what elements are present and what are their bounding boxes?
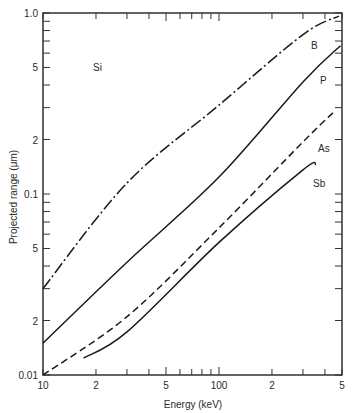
- projected-range-chart: 1025100250.01250.1251.0 BPAsSbSi Energy …: [0, 0, 353, 413]
- series-label-as: As: [318, 143, 330, 154]
- x-tick-label: 100: [211, 380, 228, 391]
- series-label-p: P: [320, 75, 327, 86]
- x-tick-label: 2: [93, 380, 99, 391]
- axis-ticks: [43, 13, 342, 375]
- curve-as: [43, 112, 334, 375]
- x-tick-label: 2: [269, 380, 275, 391]
- x-tick-label: 5: [339, 380, 345, 391]
- y-tick-label: 2: [32, 135, 38, 146]
- x-tick-label: 10: [37, 380, 49, 391]
- y-tick-label: 0.1: [24, 189, 38, 200]
- y-tick-label: 2: [32, 316, 38, 327]
- plot-frame: [43, 13, 342, 375]
- series-label-sb: Sb: [313, 178, 326, 189]
- curve-b: [43, 16, 339, 288]
- y-tick-label: 5: [32, 62, 38, 73]
- y-axis-label: Projected range (μm): [8, 150, 19, 244]
- y-tick-label: 1.0: [24, 8, 38, 19]
- y-tick-label: 5: [32, 243, 38, 254]
- chart-canvas: 1025100250.01250.1251.0 BPAsSbSi Energy …: [0, 0, 353, 413]
- y-tick-label: 0.01: [19, 370, 39, 381]
- substrate-label: Si: [93, 62, 102, 73]
- series-label-b: B: [311, 40, 318, 51]
- x-axis-label: Energy (keV): [164, 399, 222, 410]
- curve-p: [43, 46, 341, 343]
- x-tick-label: 5: [163, 380, 169, 391]
- series-labels: BPAsSbSi: [93, 40, 330, 189]
- tick-labels: 1025100250.01250.1251.0: [19, 8, 346, 391]
- data-curves: [43, 16, 341, 375]
